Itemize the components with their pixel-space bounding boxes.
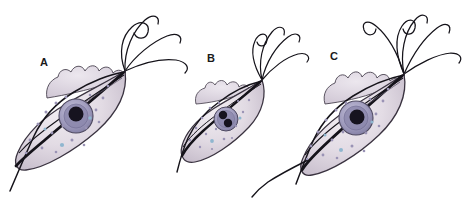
karyosome-a-1 [69,107,84,122]
figure-container: A [0,0,464,209]
organism-label-a: A [40,56,48,68]
nucleus-a [59,99,93,133]
organism-label-b: B [207,52,215,64]
karyosome-b-1 [219,111,227,119]
karyosome-c-1 [350,110,365,125]
organism-label-c: C [330,50,338,62]
karyosome-b-2 [224,119,232,127]
nucleus-c [339,101,373,135]
nucleus-b [214,107,238,131]
protozoa-illustration: A [0,0,464,209]
figure-caption [0,200,464,209]
